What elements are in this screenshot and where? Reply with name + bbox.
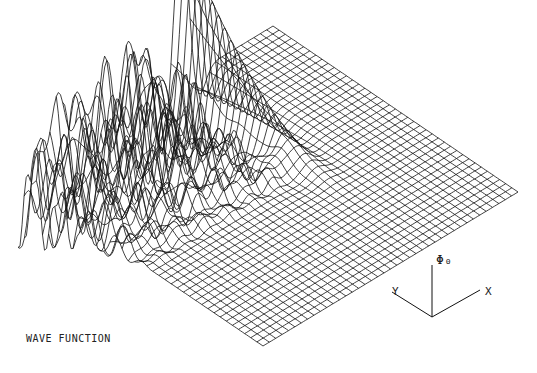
wireframe-surface-plot [0, 0, 537, 373]
x-axis-label: X [485, 285, 492, 298]
z-axis-label: Φ₀ [436, 252, 453, 267]
y-axis-label: Y [392, 285, 399, 298]
chart-title: WAVE FUNCTION [26, 333, 111, 344]
axis-triad [392, 265, 480, 317]
surface-mesh [18, 0, 518, 346]
